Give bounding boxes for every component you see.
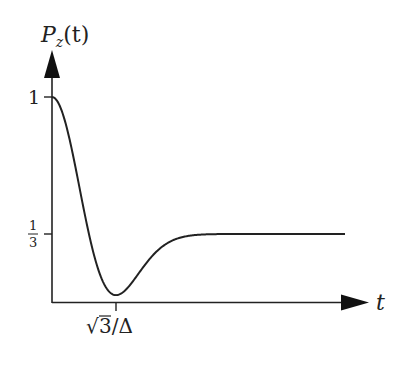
x-axis-arrow-icon (341, 295, 369, 311)
x-tick-label: √ 3/Δ (86, 314, 133, 338)
y-tick-label-one: 1 (28, 86, 40, 108)
svg-text:3/Δ: 3/Δ (99, 314, 133, 338)
chart: Pz(t) 1 1 3 √ 3/Δ t (0, 0, 400, 366)
y-axis-arrow-icon (44, 50, 60, 78)
x-axis-label: t (376, 290, 385, 315)
pz-curve (52, 97, 345, 295)
svg-text:√: √ (86, 314, 99, 338)
y-tick-label-third-num: 1 (29, 218, 37, 233)
y-axis-label: Pz(t) (40, 22, 89, 50)
y-tick-label-third-den: 3 (29, 235, 37, 250)
